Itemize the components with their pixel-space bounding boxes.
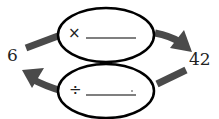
right-value: 42 [189, 51, 211, 68]
divide-sign: ÷ [69, 83, 82, 98]
top-arrow-left-segment [26, 36, 58, 48]
bottom-blank-dot [131, 90, 132, 91]
diagram-canvas [0, 0, 219, 119]
multiply-sign: × [68, 26, 81, 41]
left-value: 6 [7, 47, 18, 64]
bottom-arrow-right-segment [157, 70, 186, 84]
